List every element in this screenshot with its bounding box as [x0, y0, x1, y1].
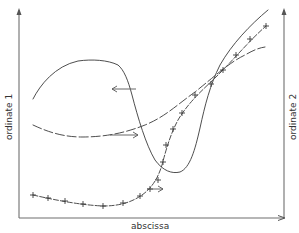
left-y-axis-arrowhead-icon — [17, 8, 22, 15]
solid-curve — [33, 10, 268, 173]
x-axis-label: abscissa — [131, 221, 169, 231]
left-y-axis-label: ordinate 1 — [4, 94, 14, 140]
dashed-curve-arrow-right-icon — [110, 132, 138, 138]
crossed-curve-arrow-right-icon — [147, 186, 163, 192]
crossed-curve — [33, 26, 266, 206]
solid-curve-arrow-left-icon — [112, 86, 136, 92]
right-y-axis-arrowhead-icon — [282, 8, 287, 15]
crossed-curve-markers — [30, 23, 269, 209]
dashed-curve — [33, 47, 265, 137]
dual-axis-line-chart: abscissa ordinate 1 ordinate 2 — [0, 0, 299, 233]
right-y-axis-label: ordinate 2 — [288, 94, 298, 140]
